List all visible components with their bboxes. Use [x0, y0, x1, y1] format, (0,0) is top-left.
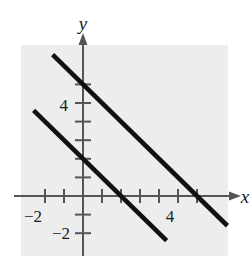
y-axis-arrowhead	[79, 33, 88, 45]
x-axis-label: x	[240, 186, 250, 207]
x-tick-label-4: 4	[166, 207, 175, 226]
coordinate-plane-svg: −2 4 4 −2 y x	[0, 0, 252, 256]
y-tick-label--2: −2	[52, 224, 70, 243]
graph-figure: −2 4 4 −2 y x	[0, 0, 252, 256]
y-axis-label: y	[77, 13, 88, 34]
x-axis-arrowhead	[229, 192, 241, 201]
x-tick-label--2: −2	[24, 207, 42, 226]
y-tick-label-4: 4	[60, 96, 69, 115]
